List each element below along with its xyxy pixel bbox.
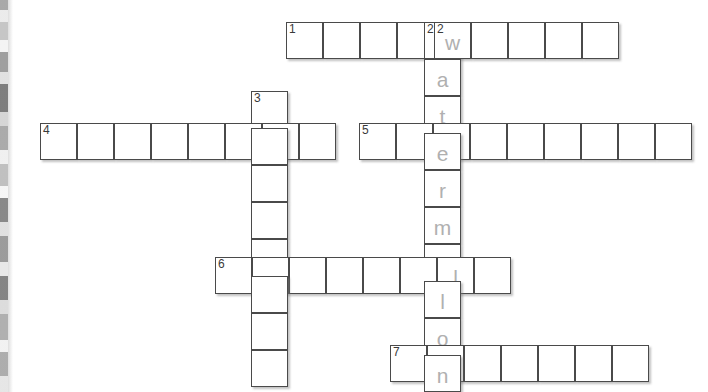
crossword-cell[interactable] — [251, 276, 288, 313]
crossword-cell[interactable] — [470, 123, 507, 160]
crossword-cell[interactable] — [188, 123, 225, 160]
clue-number: 5 — [362, 124, 369, 137]
crossword-cell[interactable]: 5 — [359, 123, 396, 160]
crossword-cell[interactable] — [251, 350, 288, 387]
crossword-cell[interactable] — [323, 22, 360, 59]
clue-number: 1 — [289, 23, 296, 36]
crossword-cell[interactable]: 7 — [390, 345, 427, 382]
crossword-cell[interactable] — [251, 313, 288, 350]
crossword-cell[interactable] — [251, 128, 288, 165]
crossword-cell[interactable]: m — [424, 207, 461, 244]
crossword-cell[interactable] — [582, 22, 619, 59]
crossword-cell[interactable] — [544, 123, 581, 160]
crossword-cell[interactable] — [501, 345, 538, 382]
cell-letter: w — [435, 23, 470, 58]
cell-letter: a — [425, 60, 460, 95]
crossword-cell[interactable] — [575, 345, 612, 382]
crossword-cell[interactable] — [474, 257, 511, 294]
cell-letter: n — [425, 356, 460, 391]
crossword-cell[interactable] — [360, 22, 397, 59]
crossword-cell[interactable] — [151, 123, 188, 160]
crossword-cell[interactable] — [464, 345, 501, 382]
crossword-cell[interactable]: 1 — [286, 22, 323, 59]
clue-number: 4 — [43, 124, 50, 137]
crossword-cell[interactable]: 6 — [215, 257, 252, 294]
crossword-cell[interactable]: 4 — [40, 123, 77, 160]
crossword-cell[interactable] — [538, 345, 575, 382]
cell-letter: r — [425, 171, 460, 206]
crossword-cell[interactable] — [299, 123, 336, 160]
cell-letter: l — [425, 282, 460, 317]
crossword-cell[interactable]: r — [424, 170, 461, 207]
crossword-cell[interactable] — [251, 202, 288, 239]
crossword-cell[interactable]: n — [424, 355, 461, 392]
crossword-cell[interactable] — [507, 123, 544, 160]
crossword-cell[interactable] — [471, 22, 508, 59]
crossword-cell[interactable] — [655, 123, 692, 160]
scan-edge-shadow — [8, 0, 13, 392]
crossword-cell[interactable]: e — [424, 133, 461, 170]
crossword-cell[interactable] — [363, 257, 400, 294]
clue-number: 6 — [218, 258, 225, 271]
crossword-cell[interactable]: l — [424, 281, 461, 318]
crossword-cell[interactable] — [251, 165, 288, 202]
crossword-cell[interactable] — [326, 257, 363, 294]
clue-number: 7 — [393, 346, 400, 359]
crossword-cell[interactable] — [508, 22, 545, 59]
crossword-cell[interactable] — [618, 123, 655, 160]
scan-edge-artifact — [0, 0, 8, 392]
crossword-screenshot: 12w2wa3t45eerme6llo7nn — [0, 0, 708, 392]
crossword-cell[interactable] — [612, 345, 649, 382]
crossword-cell[interactable] — [289, 257, 326, 294]
crossword-cell[interactable]: 2w — [434, 22, 471, 59]
crossword-cell[interactable] — [114, 123, 151, 160]
crossword-cell[interactable]: a — [424, 59, 461, 96]
clue-number: 3 — [254, 92, 261, 105]
cell-letter: e — [425, 134, 460, 169]
crossword-cell[interactable] — [545, 22, 582, 59]
crossword-cell[interactable] — [581, 123, 618, 160]
cell-letter: m — [425, 208, 460, 243]
crossword-cell[interactable] — [77, 123, 114, 160]
